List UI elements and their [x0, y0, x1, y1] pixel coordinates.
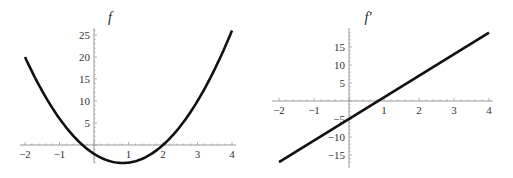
x-tick-label: −2: [273, 104, 285, 116]
y-tick-label: 25: [79, 29, 91, 41]
plot-f: −2−11234510152025f: [19, 10, 236, 163]
x-tick-label: 1: [126, 148, 132, 160]
y-tick-label: −15: [328, 149, 346, 161]
plot-f-prime: −2−11234−15−10−551015f′: [272, 10, 493, 168]
y-tick-label: 5: [85, 117, 91, 129]
x-tick-label: −2: [19, 148, 31, 160]
y-tick-label: 15: [79, 73, 91, 85]
y-tick-label: 10: [334, 59, 346, 71]
x-tick-label: 3: [451, 104, 457, 116]
y-tick-label: 10: [79, 95, 91, 107]
curve-line: [279, 33, 489, 163]
y-tick-label: 20: [79, 51, 91, 63]
x-tick-label: 1: [381, 104, 387, 116]
plot-title: f′: [365, 10, 373, 25]
x-tick-label: 4: [486, 104, 492, 116]
y-tick-label: 15: [334, 41, 346, 53]
plot-title: f: [108, 10, 114, 25]
x-tick-label: −1: [308, 104, 320, 116]
x-tick-label: 3: [195, 148, 201, 160]
y-tick-label: 5: [340, 77, 346, 89]
x-tick-label: 4: [229, 148, 235, 160]
y-tick-label: −10: [328, 131, 346, 143]
x-tick-label: −1: [54, 148, 66, 160]
chart-canvas: −2−11234510152025f−2−11234−15−10−551015f…: [0, 0, 513, 178]
x-tick-label: 2: [416, 104, 422, 116]
x-tick-label: 2: [160, 148, 166, 160]
